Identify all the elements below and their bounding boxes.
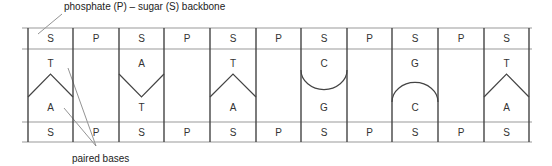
base-bottom: A	[230, 102, 237, 113]
base-pair: TA	[210, 58, 256, 113]
top-strand-sugar: S	[321, 33, 328, 44]
base-top: G	[411, 58, 419, 69]
base-top: T	[47, 58, 53, 69]
bottom-strand-sugar: S	[230, 127, 237, 138]
bottom-strand-phosphate: P	[458, 127, 465, 138]
base-top: T	[230, 58, 236, 69]
top-strand-phosphate: P	[275, 33, 282, 44]
paired-bases-pointer-line-2	[64, 108, 96, 146]
chevron-down-bond-shape	[119, 74, 164, 97]
bottom-strand-sugar: S	[321, 127, 328, 138]
base-bottom: A	[503, 102, 510, 113]
top-strand-phosphate: P	[184, 33, 191, 44]
base-pair: AT	[119, 58, 164, 113]
bottom-strand-sugar: S	[47, 127, 54, 138]
base-pair-shapes: TAATTACGGCTA	[28, 58, 529, 113]
base-top: A	[138, 58, 145, 69]
backbone-pointer-line	[38, 14, 62, 34]
base-pair: GC	[392, 58, 438, 113]
base-bottom: C	[411, 102, 418, 113]
dna-diagram: phosphate (P) – sugar (S) backbone paire…	[0, 0, 552, 166]
bottom-strand-sugar: S	[503, 127, 510, 138]
bottom-strand-phosphate: P	[366, 127, 373, 138]
top-strand-sugar: S	[230, 33, 237, 44]
chevron-up-bond-shape	[484, 74, 529, 97]
backbone-label: phosphate (P) – sugar (S) backbone	[64, 1, 226, 12]
base-bottom: T	[138, 102, 144, 113]
top-strand-sugar: S	[503, 33, 510, 44]
top-strand-sugar: S	[412, 33, 419, 44]
chevron-up-bond-shape	[210, 74, 256, 97]
arc-down-bond-shape	[301, 70, 347, 90]
paired-bases-label: paired bases	[72, 153, 129, 164]
base-top: T	[503, 58, 509, 69]
base-pair: TA	[28, 58, 73, 113]
strand-cells: SPSPSPSPSPSSPSPSPSPSPS	[28, 28, 529, 142]
bottom-strand-sugar: S	[138, 127, 145, 138]
chevron-up-bond-shape	[28, 74, 73, 97]
base-bottom: A	[47, 102, 54, 113]
bottom-strand-phosphate: P	[275, 127, 282, 138]
bottom-strand-phosphate: P	[184, 127, 191, 138]
top-strand-sugar: S	[138, 33, 145, 44]
top-strand-phosphate: P	[93, 33, 100, 44]
bottom-strand-phosphate: P	[93, 127, 100, 138]
base-bottom: G	[320, 102, 328, 113]
base-pair: CG	[301, 58, 347, 113]
top-strand-phosphate: P	[458, 33, 465, 44]
bottom-strand-sugar: S	[412, 127, 419, 138]
arc-up-bond-shape	[392, 82, 438, 102]
top-strand-phosphate: P	[366, 33, 373, 44]
top-strand-sugar: S	[47, 33, 54, 44]
base-pair: TA	[484, 58, 529, 113]
base-top: C	[320, 58, 327, 69]
